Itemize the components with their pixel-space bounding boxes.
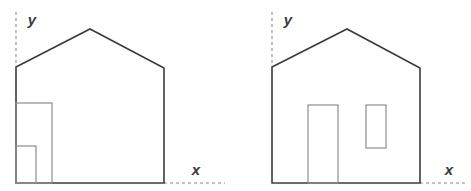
inner-opening-rect-left [16,146,36,183]
house-diagram-left: y x [16,11,225,183]
x-axis-label-left: x [191,161,201,178]
window-rect-right [366,105,386,148]
y-axis-label-right: y [283,11,293,28]
x-axis-label-right: x [444,161,454,178]
y-axis-label-left: y [27,11,37,28]
house-outline-left [16,29,164,183]
house-outline-right [272,29,420,183]
figure-canvas: y x y x [0,0,471,191]
figure-root: y x y x [0,0,471,191]
door-rect-right [308,105,338,183]
house-diagram-right: y x [272,11,468,183]
outer-opening-rect-left [16,103,52,183]
